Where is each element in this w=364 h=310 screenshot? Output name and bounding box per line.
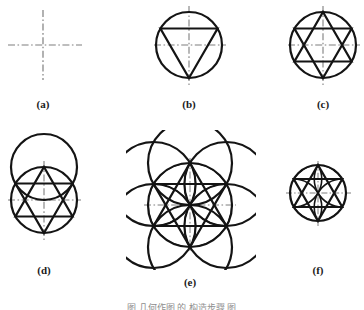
panel-a-center-lines [0,0,100,95]
seed-of-life-circles [126,130,256,270]
panel-e-seed-of-life [126,130,256,270]
panel-caption-f: (f) [288,264,348,276]
figure-bottom-caption: 图 几何作图 的 构造步骤 图 [0,303,364,310]
panel-b-circle-triangle [150,0,235,95]
panel-f-drawing [285,160,355,235]
panel-d-offset-circles [5,128,100,258]
panel-c-drawing [284,0,364,95]
panel-f-petal-hexagram [285,160,355,235]
panel-d-drawing [5,128,100,258]
panel-b-drawing [150,0,235,95]
panel-caption-b: (b) [159,98,219,110]
panel-caption-c: (c) [293,98,353,110]
panel-caption-d: (d) [14,264,74,276]
panel-c-hexagram [284,0,364,95]
panel-a-drawing [0,0,100,95]
figure-container: (a) (b) (c) (d) (e) (f) 图 几何作图 的 构造步骤 图 [0,0,364,310]
panel-caption-a: (a) [13,98,73,110]
panel-caption-e: (e) [160,276,220,288]
panel-e-drawing [126,130,256,270]
